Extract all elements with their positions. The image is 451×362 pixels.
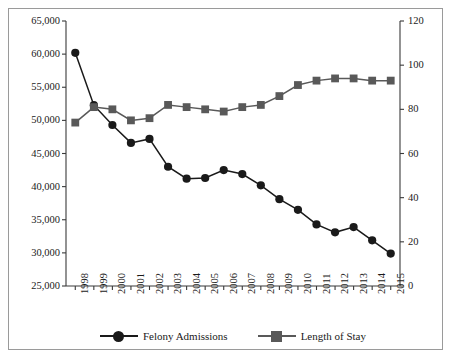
right-tick-label: 100 (408, 60, 424, 71)
x-tick-label: 1999 (98, 273, 109, 294)
x-tick-label: 2004 (191, 273, 202, 294)
data-point-marker (312, 220, 320, 228)
x-tick-label: 2000 (116, 273, 127, 294)
data-point-marker (164, 163, 172, 171)
x-tick-label: 2014 (376, 273, 387, 294)
data-point-marker (201, 105, 209, 113)
data-point-marker (350, 75, 358, 83)
legend-label: Felony Admissions (143, 330, 228, 342)
left-tick-label: 50,000 (8, 115, 60, 126)
right-tick-label: 120 (408, 16, 424, 27)
right-tick-label: 60 (408, 149, 419, 160)
left-axis-ticks (62, 21, 66, 286)
data-point-marker (294, 81, 302, 89)
chart-legend: Felony AdmissionsLength of Stay (66, 325, 400, 347)
x-tick-label: 2011 (321, 273, 332, 294)
data-point-marker (71, 119, 79, 127)
data-point-marker (145, 135, 153, 143)
x-tick-label: 2002 (154, 273, 165, 294)
data-point-marker (294, 206, 302, 214)
data-point-marker (368, 77, 376, 85)
legend-marker-circle-icon (113, 331, 124, 342)
data-point-marker (108, 121, 116, 129)
legend-swatch (258, 330, 296, 342)
left-tick-label: 40,000 (8, 182, 60, 193)
legend-swatch (100, 330, 138, 342)
x-tick-label: 2010 (302, 273, 313, 294)
x-tick-label: 2005 (209, 273, 220, 294)
right-tick-label: 40 (408, 193, 419, 204)
data-point-marker (238, 103, 246, 111)
data-point-marker (220, 108, 228, 116)
x-tick-label: 2008 (265, 273, 276, 294)
series-line (75, 53, 390, 254)
data-point-marker (183, 175, 191, 183)
data-series-layer (71, 49, 395, 258)
left-tick-label: 25,000 (8, 281, 60, 292)
data-point-marker (275, 195, 283, 203)
legend-item-length-of-stay[interactable]: Length of Stay (258, 330, 366, 342)
data-point-marker (71, 49, 79, 57)
data-point-marker (331, 75, 339, 83)
data-point-marker (387, 249, 395, 257)
data-point-marker (350, 223, 358, 231)
left-tick-label: 60,000 (8, 49, 60, 60)
data-point-marker (238, 170, 246, 178)
left-tick-label: 65,000 (8, 16, 60, 27)
axes-lines (66, 21, 400, 286)
right-tick-label: 20 (408, 237, 419, 248)
x-tick-label: 1998 (79, 273, 90, 294)
x-tick-label: 2007 (246, 273, 257, 294)
right-axis-ticks (400, 21, 404, 286)
x-tick-label: 2015 (395, 273, 406, 294)
data-point-marker (331, 228, 339, 236)
data-point-marker (146, 114, 154, 122)
right-tick-label: 0 (408, 281, 413, 292)
left-tick-label: 35,000 (8, 215, 60, 226)
plot-area (0, 0, 451, 362)
data-point-marker (183, 103, 191, 111)
series-line (75, 78, 390, 122)
data-point-marker (164, 101, 172, 109)
left-tick-label: 45,000 (8, 149, 60, 160)
data-point-marker (257, 101, 265, 109)
data-point-marker (127, 139, 135, 147)
data-point-marker (387, 77, 395, 85)
data-point-marker (220, 166, 228, 174)
data-point-marker (108, 105, 116, 113)
x-tick-label: 2006 (228, 273, 239, 294)
left-tick-label: 30,000 (8, 248, 60, 259)
data-point-marker (275, 92, 283, 100)
x-tick-label: 2009 (283, 273, 294, 294)
x-tick-label: 2013 (358, 273, 369, 294)
x-tick-label: 2012 (339, 273, 350, 294)
data-point-marker (90, 103, 98, 111)
data-point-marker (313, 77, 321, 85)
x-tick-label: 2001 (135, 273, 146, 294)
x-tick-label: 2003 (172, 273, 183, 294)
legend-item-felony-admissions[interactable]: Felony Admissions (100, 330, 228, 342)
legend-marker-square-icon (271, 331, 282, 342)
data-point-marker (257, 181, 265, 189)
data-point-marker (127, 116, 135, 124)
data-point-marker (368, 236, 376, 244)
chart-figure: 65,00060,00055,00050,00045,00040,00035,0… (0, 0, 451, 362)
legend-label: Length of Stay (301, 330, 366, 342)
series-felony-admissions (71, 49, 395, 258)
right-tick-label: 80 (408, 104, 419, 115)
left-tick-label: 55,000 (8, 82, 60, 93)
data-point-marker (201, 174, 209, 182)
series-length-of-stay (71, 75, 394, 127)
